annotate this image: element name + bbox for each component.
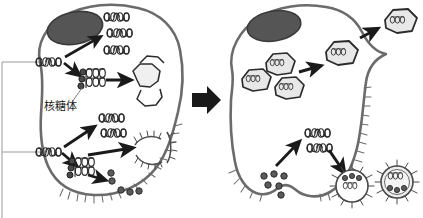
virion-hexagon-exiting [326,41,358,65]
virion-hexagon [266,53,295,75]
ribosome-label: 核糖体 [44,99,77,113]
infected-cell-early: 核糖体 [36,5,182,203]
diagram-canvas: 核糖体 [0,0,423,218]
released-naked-virion [385,9,417,33]
released-enveloped-virion [375,160,419,204]
viral-replication-figure: 核糖体 [0,0,423,218]
stage-transition-arrow [192,86,221,114]
virion-hexagon [242,69,271,91]
virion-hexagon [275,77,304,99]
infected-cell-late [229,5,419,208]
